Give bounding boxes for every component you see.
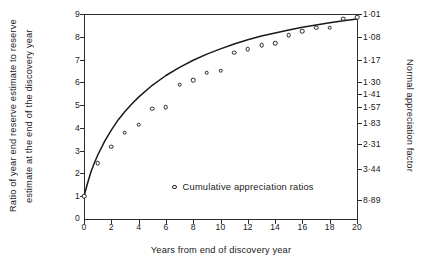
data-point xyxy=(287,33,292,38)
data-point xyxy=(341,16,346,21)
x-tick-label: 12 xyxy=(243,222,253,232)
x-tick-label: 10 xyxy=(216,222,226,232)
data-point xyxy=(327,25,332,30)
secondary-y-tick-label: 1·17 xyxy=(363,55,381,65)
x-tick-label: 4 xyxy=(136,222,141,232)
x-tick-label: 0 xyxy=(82,222,87,232)
secondary-y-tick xyxy=(357,123,362,124)
y-axis-title: Ratio of year end reserve estimate to re… xyxy=(0,0,60,232)
x-axis-title: Years from end of discovery year xyxy=(84,245,358,255)
x-tick-label: 2 xyxy=(109,222,114,232)
data-point xyxy=(109,145,114,150)
secondary-y-tick-label: 1·57 xyxy=(363,102,381,112)
data-point xyxy=(246,47,251,52)
data-point xyxy=(95,161,100,166)
secondary-y-tick xyxy=(357,82,362,83)
data-point xyxy=(82,194,87,199)
x-tick-label: 20 xyxy=(352,222,362,232)
y-tick-label: 6 xyxy=(75,77,80,87)
data-point xyxy=(191,78,196,83)
secondary-y-tick-label: 2·31 xyxy=(363,139,381,149)
secondary-y-tick-label: 8·89 xyxy=(363,195,381,205)
y-tick-label: 2 xyxy=(75,168,80,178)
y-tick xyxy=(80,37,85,38)
y-tick xyxy=(80,173,85,174)
secondary-y-axis-title-text: Normal appreciation factor xyxy=(405,10,415,220)
secondary-y-tick xyxy=(357,200,362,201)
data-point xyxy=(273,41,278,46)
y-tick-label: 9 xyxy=(75,9,80,19)
y-tick xyxy=(80,60,85,61)
y-tick xyxy=(80,128,85,129)
x-tick-label: 6 xyxy=(163,222,168,232)
secondary-y-tick xyxy=(357,60,362,61)
secondary-y-tick xyxy=(357,94,362,95)
chart-figure: Ratio of year end reserve estimate to re… xyxy=(0,0,443,274)
secondary-y-tick xyxy=(357,144,362,145)
data-point xyxy=(300,29,305,34)
y-tick-label: 3 xyxy=(75,146,80,156)
secondary-y-tick-label: 1·83 xyxy=(363,118,381,128)
y-axis-origin-label: 0 xyxy=(75,213,80,223)
y-tick xyxy=(80,82,85,83)
y-tick-label: 5 xyxy=(75,100,80,110)
data-point xyxy=(164,105,169,110)
data-point xyxy=(232,50,237,55)
legend-label: Cumulative appreciation ratios xyxy=(183,182,314,192)
x-tick-label: 16 xyxy=(298,222,308,232)
data-point xyxy=(218,69,223,74)
y-axis-title-line2: estimate at the end of the discovery yea… xyxy=(24,0,34,232)
legend-marker-icon xyxy=(172,185,177,190)
y-tick-label: 8 xyxy=(75,32,80,42)
y-tick-label: 4 xyxy=(75,123,80,133)
secondary-y-tick-label: 1·01 xyxy=(363,9,381,19)
data-point xyxy=(150,107,155,112)
x-tick-label: 14 xyxy=(270,222,280,232)
data-point xyxy=(136,123,141,128)
data-point xyxy=(259,43,264,48)
y-tick-label: 1 xyxy=(75,191,80,201)
y-tick-label: 7 xyxy=(75,55,80,65)
secondary-y-tick xyxy=(357,169,362,170)
data-point xyxy=(355,15,360,20)
y-tick xyxy=(80,14,85,15)
data-point xyxy=(314,25,319,30)
secondary-y-tick-label: 1·41 xyxy=(363,89,381,99)
x-tick-label: 8 xyxy=(191,222,196,232)
y-tick xyxy=(80,105,85,106)
secondary-y-tick-label: 1·30 xyxy=(363,77,381,87)
y-axis-title-line1: Ratio of year end reserve estimate to re… xyxy=(8,0,18,232)
secondary-y-tick xyxy=(357,37,362,38)
secondary-y-tick-label: 1·08 xyxy=(363,32,381,42)
chart-legend: Cumulative appreciation ratios xyxy=(172,182,314,192)
secondary-y-tick-label: 3·44 xyxy=(363,164,381,174)
plot-area: 0 123456789 1·011·081·171·301·411·571·83… xyxy=(84,14,358,220)
y-tick xyxy=(80,151,85,152)
secondary-y-tick xyxy=(357,107,362,108)
data-point xyxy=(205,71,210,76)
x-tick-label: 18 xyxy=(325,222,335,232)
secondary-y-axis-title: Normal appreciation factor xyxy=(405,10,435,220)
data-point xyxy=(123,131,128,136)
data-point xyxy=(177,82,182,87)
